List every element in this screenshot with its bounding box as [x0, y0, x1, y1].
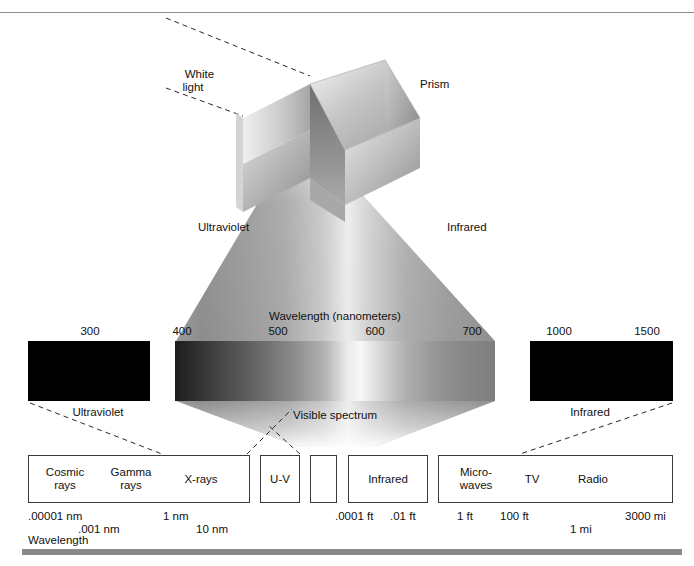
infrared-band — [530, 341, 673, 401]
ultraviolet-beam-label: Ultraviolet — [198, 221, 249, 234]
tick-1000: 1000 — [532, 325, 586, 337]
em-band-xrays-label: X-rays — [170, 473, 232, 486]
bottom-divider-bar — [22, 549, 682, 555]
wavelength-axis-title: Wavelength (nanometers) — [245, 310, 425, 323]
em-spectrum-chart: Cosmic rays Gamma rays X-rays U-V Infrar… — [28, 455, 673, 503]
em-band-radio-label: Radio — [568, 473, 618, 486]
band-connector-lines — [0, 395, 694, 457]
scale-label-100ft: 100 ft — [500, 510, 529, 522]
em-band-gamma-rays-label: Gamma rays — [100, 466, 162, 492]
prism-label: Prism — [420, 78, 449, 91]
spectrum-figure: White light Prism Ultraviolet Infrared W… — [0, 0, 694, 566]
scale-label-3000mi: 3000 mi — [625, 510, 666, 522]
scale-label-1nm: 1 nm — [163, 510, 189, 522]
tick-600: 600 — [353, 325, 397, 337]
tick-500: 500 — [256, 325, 300, 337]
visible-spectrum-band — [175, 341, 495, 401]
white-light-label: White light — [163, 55, 223, 107]
em-band-cosmic-rays-label: Cosmic rays — [34, 466, 96, 492]
tick-700: 700 — [450, 325, 494, 337]
em-band-infrared-label: Infrared — [348, 473, 428, 486]
em-band-tv-label: TV — [512, 473, 552, 486]
tick-400: 400 — [160, 325, 204, 337]
tick-uv-300: 300 — [60, 325, 120, 337]
em-band-visible[interactable] — [310, 455, 337, 503]
scale-label-1ft: 1 ft — [457, 510, 473, 522]
ultraviolet-band — [28, 341, 150, 401]
scale-label-00001nm: .00001 nm — [28, 510, 82, 522]
wavelength-caption: Wavelength — [28, 534, 88, 546]
scale-label-0001ft: .0001 ft — [335, 510, 373, 522]
infrared-beam-label: Infrared — [447, 221, 487, 234]
scale-label-10nm: 10 nm — [196, 523, 228, 535]
tick-1500: 1500 — [620, 325, 674, 337]
em-band-uv-label: U-V — [260, 473, 300, 486]
scale-label-01ft: .01 ft — [390, 510, 416, 522]
scale-label-1mi: 1 mi — [570, 523, 592, 535]
em-band-microwaves-label: Micro- waves — [446, 466, 506, 492]
